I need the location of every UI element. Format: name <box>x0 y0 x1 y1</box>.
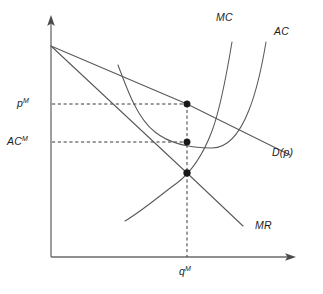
monopoly-diagram: pM ACM qM MC AC D(p) MR <box>0 0 323 294</box>
average-cost-monopoly-label: ACM <box>7 135 28 147</box>
demand-curve <box>51 46 290 155</box>
quantity-monopoly-label-sup: M <box>185 265 191 272</box>
average-cost-monopoly-label-sup: M <box>22 135 28 142</box>
average-cost-monopoly-label-base: AC <box>7 135 22 147</box>
guide-lines-group <box>52 104 187 257</box>
price-monopoly-label: pM <box>17 97 29 109</box>
marginal-revenue-label: MR <box>255 219 272 231</box>
marginal-cost-curve <box>125 42 232 221</box>
mr-mc-point-dot <box>184 170 191 177</box>
price-monopoly-label-sup: M <box>23 97 29 104</box>
quantity-monopoly-label: qM <box>179 265 191 277</box>
demand-label: D(p) <box>272 146 293 158</box>
marginal-cost-label: MC <box>216 11 233 23</box>
price-point-dot <box>184 101 190 107</box>
average-cost-label: AC <box>274 25 289 37</box>
average-cost-point-dot <box>184 139 190 145</box>
marginal-revenue-curve <box>51 46 243 226</box>
